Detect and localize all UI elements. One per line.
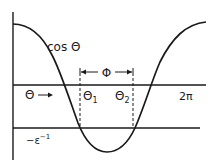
threshold-exponent: −1: [40, 133, 50, 141]
cos-theta-label: cos Θ: [47, 40, 80, 54]
phi-left-arrowhead-icon: [81, 70, 86, 75]
theta-arrow-head-icon: [48, 93, 53, 98]
cosine-diagram: Φ cos Θ Θ Θ1 Θ2 2π −ε−1: [0, 0, 216, 161]
theta1-label: Θ1: [83, 89, 98, 105]
theta2-label: Θ2: [115, 89, 130, 105]
theta1-subscript: 1: [92, 96, 97, 105]
two-pi-label: 2π: [179, 90, 193, 103]
theta2-subscript: 2: [124, 96, 129, 105]
theta1-symbol: Θ: [83, 89, 92, 103]
threshold-base: −ε: [26, 135, 40, 146]
theta2-symbol: Θ: [115, 89, 124, 103]
phi-right-arrowhead-icon: [127, 70, 132, 75]
theta-variable-label: Θ: [25, 88, 34, 102]
phi-label: Φ: [102, 66, 111, 80]
threshold-label: −ε−1: [26, 133, 50, 146]
